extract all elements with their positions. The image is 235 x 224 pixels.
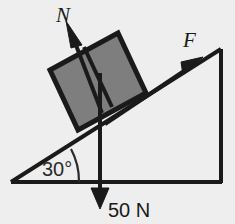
incline-angle-label: 30° — [42, 158, 72, 180]
weight-force-arrowhead — [91, 188, 109, 209]
diagram-canvas: N F 50 N 30° — [0, 0, 235, 224]
normal-force-label: N — [55, 3, 71, 27]
applied-force-arrowhead — [181, 57, 203, 75]
physics-diagram-figure: N F 50 N 30° — [0, 0, 235, 224]
applied-force-label: F — [182, 28, 196, 52]
weight-force-label: 50 N — [108, 199, 150, 221]
